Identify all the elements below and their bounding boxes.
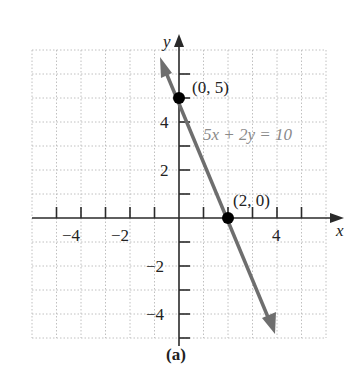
graph-canvas: y x −4 −2 4 4 2 −2 −4 (0, 5) (2, 0) 5x +… bbox=[0, 0, 360, 377]
point-0-5 bbox=[173, 92, 185, 104]
x-tick-label-4: 4 bbox=[272, 226, 281, 245]
point-label-2-0: (2, 0) bbox=[233, 191, 270, 210]
y-tick-label-neg2: −2 bbox=[146, 257, 164, 276]
axes bbox=[32, 44, 334, 346]
equation-label: 5x + 2y = 10 bbox=[203, 125, 293, 144]
line-arrow-down-icon bbox=[262, 312, 276, 334]
y-tick-label-4: 4 bbox=[160, 113, 169, 132]
y-axis-label: y bbox=[161, 32, 171, 51]
x-tick-label-neg4: −4 bbox=[62, 226, 81, 245]
point-2-0 bbox=[222, 212, 234, 224]
point-label-0-5: (0, 5) bbox=[192, 78, 229, 97]
y-tick-label-2: 2 bbox=[160, 161, 169, 180]
y-tick-label-neg4: −4 bbox=[146, 305, 165, 324]
figure-caption: (a) bbox=[166, 345, 186, 364]
x-axis-label: x bbox=[335, 221, 344, 240]
x-tick-label-neg2: −2 bbox=[111, 226, 129, 245]
y-axis-arrow-icon bbox=[174, 34, 184, 47]
line-arrow-up-icon bbox=[160, 57, 172, 78]
